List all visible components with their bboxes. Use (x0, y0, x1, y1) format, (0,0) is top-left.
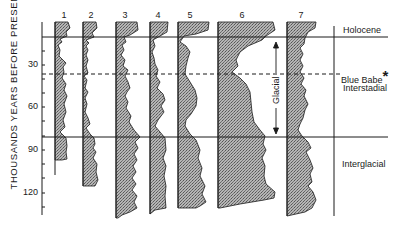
holocene-label: Holocene (343, 25, 381, 35)
column-1-profile (55, 22, 70, 160)
column-label-3: 3 (118, 10, 132, 20)
y-tick-60: 60 (16, 101, 38, 111)
column-7-profile (287, 22, 316, 216)
column-label-4: 4 (151, 10, 165, 20)
column-4-profile (150, 22, 168, 214)
y-tick-30: 30 (16, 59, 38, 69)
column-label-6: 6 (235, 10, 249, 20)
column-label-7: 7 (294, 10, 308, 20)
column-5-profile (178, 22, 209, 208)
interglacial-label: Interglacial (342, 159, 386, 169)
asterisk-icon: * (383, 67, 389, 84)
column-3-profile (116, 22, 140, 218)
y-tick-120: 120 (16, 187, 38, 197)
column-label-2: 2 (84, 10, 98, 20)
interstadial-label: Interstadial (343, 83, 387, 93)
y-axis-label: THOUSANDS YEARS BEFORE PRESENT (8, 50, 19, 190)
column-label-1: 1 (57, 10, 71, 20)
column-2-profile (83, 22, 98, 186)
y-tick-90: 90 (16, 144, 38, 154)
column-6-profile (218, 22, 275, 208)
column-label-5: 5 (183, 10, 197, 20)
glacial-label: Glacial (271, 76, 281, 104)
